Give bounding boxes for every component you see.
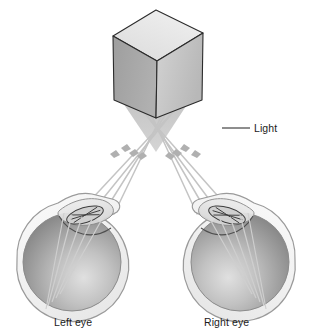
ray-arrowhead [110, 150, 120, 158]
left-eye: Left eye [17, 193, 129, 328]
diagram-canvas: Left eye [0, 0, 312, 335]
ray-arrowhead [180, 144, 190, 152]
right-eye: Right eye [183, 193, 295, 328]
ray-arrowhead [121, 144, 131, 152]
right-eye-label: Right eye [204, 316, 249, 328]
cube-object [113, 10, 203, 118]
light-callout: Light [222, 122, 277, 134]
left-eye-label: Left eye [54, 316, 92, 328]
ray-arrowhead [191, 150, 201, 158]
binocular-vision-diagram: Left eye [0, 0, 312, 335]
light-label: Light [254, 122, 277, 134]
